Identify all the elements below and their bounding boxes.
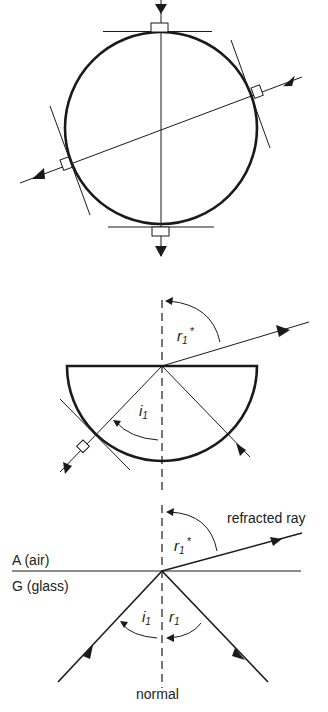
arrow-icon-arc-r1-star: [165, 297, 173, 305]
arrow-icon-arc-r1-2: [166, 634, 174, 642]
optics-diagram: r1* i1 refracted ray A (air) G (glass) n…: [0, 0, 328, 712]
arrow-icon-reflected-2: [232, 648, 245, 660]
arrow-icon-reflected: [236, 443, 246, 456]
label-glass: G (glass): [12, 578, 69, 594]
angle-arc-i1: [116, 422, 158, 440]
label-i1-2: i1: [142, 608, 151, 627]
label-r1-star: r1*: [177, 325, 195, 346]
label-refracted-ray: refracted ray: [227, 510, 306, 526]
right-angle-marker-bottom: [152, 227, 169, 236]
label-normal: normal: [136, 686, 179, 702]
circle-block-panel: [20, 0, 302, 257]
interface-panel: refracted ray A (air) G (glass) normal r…: [12, 505, 306, 702]
label-air: A (air): [12, 552, 49, 568]
label-r1-star-2: r1*: [174, 535, 192, 556]
label-i1: i1: [139, 402, 148, 421]
arrow-icon-left-lower: [32, 168, 45, 179]
label-r1-2: r1: [169, 608, 180, 627]
arrow-icon-arc-r1-star-2: [166, 508, 174, 516]
arrow-icon-down-top: [155, 4, 167, 14]
angle-arc-i1-2: [122, 624, 157, 638]
tangent-right: [231, 40, 270, 148]
right-angle-marker-top: [151, 23, 168, 32]
semicircle-block-panel: r1* i1: [60, 297, 309, 492]
arrow-icon-incident-2: [83, 645, 93, 659]
right-angle-marker-entry: [77, 440, 90, 453]
arrow-icon-down-bottom: [155, 246, 167, 257]
reflected-ray: [162, 366, 250, 457]
arrow-icon-left-upper: [283, 76, 295, 86]
arrow-icon-arc-i1-2: [120, 621, 128, 628]
arrow-icon-refracted: [276, 325, 290, 337]
